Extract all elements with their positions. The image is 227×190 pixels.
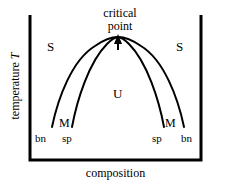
y-axis-title: temperature T: [9, 38, 21, 134]
region-label-unstable: U: [113, 87, 122, 100]
y-axis-title-text: temperature: [8, 62, 22, 119]
x-axis-title: composition: [30, 167, 201, 179]
critical-point-line-2: point: [90, 20, 150, 33]
curve-label-binodal-right: bn: [181, 133, 192, 144]
y-axis-title-symbol: T: [8, 53, 22, 60]
binodal-curve: [52, 37, 184, 127]
curve-label-spinodal-right: sp: [152, 133, 162, 144]
critical-point-label: critical point: [90, 7, 150, 33]
critical-point-line-1: critical: [90, 7, 150, 20]
spinodal-curve: [72, 37, 164, 127]
curve-label-binodal-left: bn: [35, 133, 46, 144]
region-label-stable-right: S: [176, 40, 183, 53]
region-label-stable-left: S: [47, 40, 54, 53]
curve-label-metastable-left: M: [59, 117, 70, 129]
phase-diagram-figure: critical point S S U M M bn sp sp bn tem…: [0, 0, 227, 190]
curve-label-metastable-right: M: [165, 117, 176, 129]
curve-label-spinodal-left: sp: [62, 133, 72, 144]
